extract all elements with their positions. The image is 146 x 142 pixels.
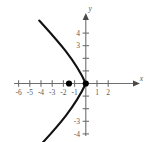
x-tick-label--3: -3 (49, 88, 55, 97)
graph-figure: -6 -5 -4 -3 -2 -1 1 2 4 3 -3 -4 x y (0, 0, 146, 142)
y-tick-label-4: 4 (76, 29, 80, 38)
y-axis-group (83, 13, 89, 136)
x-axis-label: x (139, 74, 144, 83)
x-tick-label-1: 1 (95, 88, 99, 97)
y-tick-label-3: 3 (76, 41, 80, 50)
x-tick-label--1: -1 (71, 88, 77, 97)
x-tick-label--2: -2 (60, 88, 66, 97)
y-axis-arrow-icon (83, 13, 89, 20)
coordinate-plane: -6 -5 -4 -3 -2 -1 1 2 4 3 -3 -4 x y (0, 0, 146, 142)
focus-point-marker (66, 80, 72, 86)
x-axis-group (14, 80, 140, 86)
y-axis-label: y (88, 4, 93, 13)
x-tick-label-2: 2 (106, 88, 110, 97)
y-tick-label--4: -4 (74, 130, 80, 139)
x-tick-label--5: -5 (27, 88, 33, 97)
y-tick-label--3: -3 (74, 117, 80, 126)
vertex-point-marker (83, 80, 89, 86)
x-tick-label--4: -4 (38, 88, 44, 97)
x-tick-label--6: -6 (15, 88, 21, 97)
